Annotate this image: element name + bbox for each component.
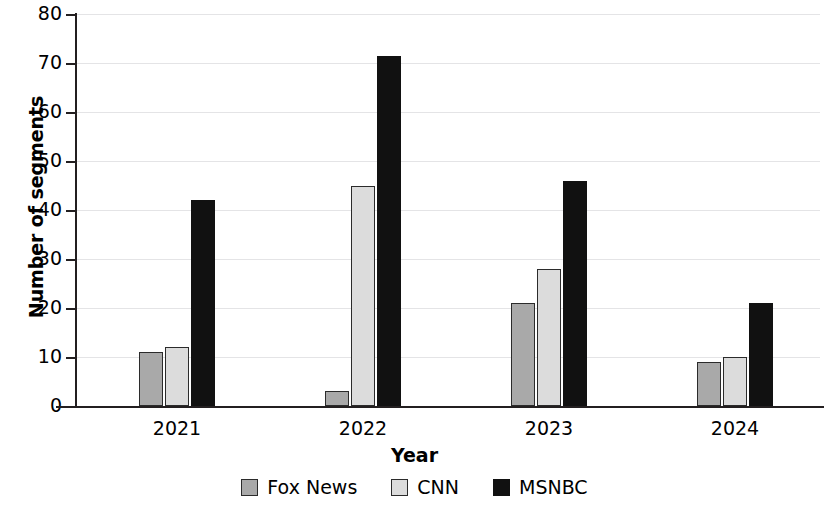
y-axis-tick-label-wrap: 10 [14, 347, 62, 366]
bar-group-2023 [511, 14, 587, 406]
legend-item-fox-news[interactable]: Fox News [241, 478, 357, 497]
x-axis-tick-label-2021: 2021 [117, 417, 237, 439]
bar-cnn-2022 [351, 186, 375, 407]
fox-news-swatch [241, 479, 258, 496]
x-axis-title: Year [0, 444, 829, 466]
legend-item-msnbc[interactable]: MSNBC [493, 478, 588, 497]
x-axis-tick-label-2023: 2023 [489, 417, 609, 439]
plot-area [76, 14, 820, 406]
bar-msnbc-2022 [377, 56, 401, 406]
y-axis-tick-label: 50 [22, 151, 62, 170]
x-axis-tick-label-2022: 2022 [303, 417, 423, 439]
y-axis-tick-label-wrap: 80 [14, 4, 62, 23]
legend-item-cnn[interactable]: CNN [391, 478, 459, 497]
y-axis-line [75, 13, 77, 407]
x-axis-tick-label-2024: 2024 [675, 417, 795, 439]
y-axis-tick-label: 80 [22, 4, 62, 23]
y-axis-tick-label: 30 [22, 249, 62, 268]
bar-cnn-2021 [165, 347, 189, 406]
bar-cnn-2023 [537, 269, 561, 406]
y-axis-tick-label-wrap: 30 [14, 249, 62, 268]
bar-msnbc-2024 [749, 303, 773, 406]
bar-group-2021 [139, 14, 215, 406]
legend-label: Fox News [267, 478, 357, 497]
chart-legend: Fox NewsCNNMSNBC [0, 478, 829, 497]
legend-label: MSNBC [519, 478, 588, 497]
legend-label: CNN [417, 478, 459, 497]
bar-group-2022 [325, 14, 401, 406]
bar-chart: Number of segments 01020304050607080 202… [0, 0, 829, 506]
bar-fox-news-2022 [325, 391, 349, 406]
y-axis-tick-label-wrap: 60 [14, 102, 62, 121]
y-axis-tick-label: 20 [22, 298, 62, 317]
y-axis-tick-label-wrap: 0 [14, 396, 62, 415]
cnn-swatch [391, 479, 408, 496]
bar-group-2024 [697, 14, 773, 406]
x-axis-line [56, 406, 824, 408]
msnbc-swatch [493, 479, 510, 496]
y-axis-tick-label-wrap: 40 [14, 200, 62, 219]
y-axis-tick-label-wrap: 20 [14, 298, 62, 317]
bar-fox-news-2023 [511, 303, 535, 406]
y-axis-tick-label: 40 [22, 200, 62, 219]
y-axis-tick-label: 70 [22, 53, 62, 72]
bar-fox-news-2024 [697, 362, 721, 406]
y-axis-tick-label: 60 [22, 102, 62, 121]
bar-msnbc-2021 [191, 200, 215, 406]
y-axis-tick-label-wrap: 70 [14, 53, 62, 72]
bar-fox-news-2021 [139, 352, 163, 406]
y-axis-tick-label-wrap: 50 [14, 151, 62, 170]
bar-cnn-2024 [723, 357, 747, 406]
bar-msnbc-2023 [563, 181, 587, 406]
y-axis-tick-label: 10 [22, 347, 62, 366]
